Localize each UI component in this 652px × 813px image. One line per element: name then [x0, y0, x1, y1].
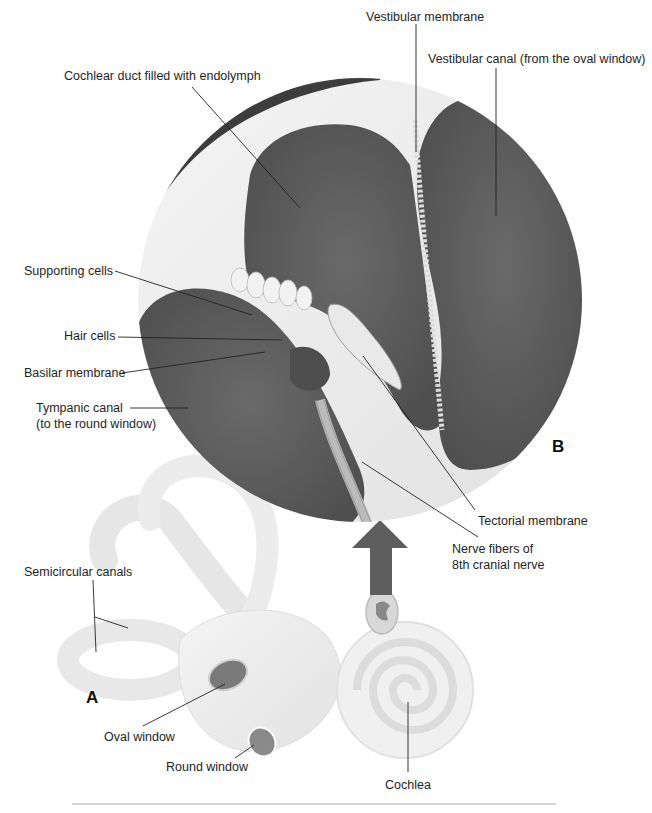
label-nerve-fibers-line2: 8th cranial nerve [452, 558, 544, 573]
label-vestibular-canal: Vestibular canal (from the oval window) [428, 52, 645, 67]
label-vestibular-membrane: Vestibular membrane [366, 10, 484, 25]
label-semicircular-canals: Semicircular canals [24, 565, 132, 580]
label-supporting-cells: Supporting cells [24, 264, 113, 279]
label-tympanic-canal-line2: (to the round window) [36, 417, 156, 432]
label-oval-window: Oval window [104, 730, 175, 745]
label-cochlear-duct: Cochlear duct filled with endolymph [64, 69, 261, 84]
panel-label-b: B [552, 437, 564, 457]
panel-label-a: A [86, 688, 98, 708]
label-tectorial-membrane: Tectorial membrane [478, 514, 588, 529]
label-round-window: Round window [166, 760, 248, 775]
label-nerve-fibers-line1: Nerve fibers of [452, 542, 533, 557]
label-hair-cells: Hair cells [64, 329, 115, 344]
up-arrow-icon [352, 520, 408, 595]
label-tympanic-canal-line1: Tympanic canal [36, 401, 123, 416]
label-cochlea: Cochlea [385, 778, 431, 793]
bottom-divider [72, 803, 556, 805]
inner-ear-figure: Vestibular membrane Vestibular canal (fr… [0, 0, 652, 813]
label-basilar-membrane: Basilar membrane [24, 366, 125, 381]
